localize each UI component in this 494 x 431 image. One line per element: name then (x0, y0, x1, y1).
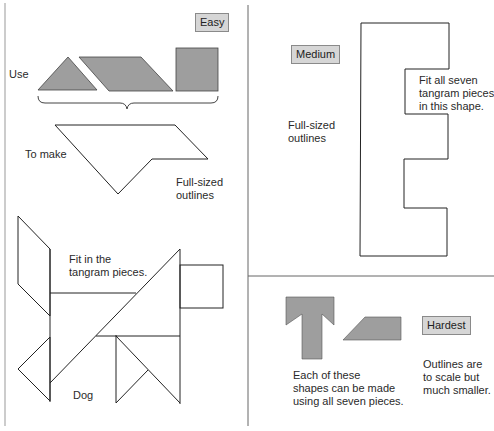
dog-outline (18, 216, 223, 404)
dog-instruction: Fit in the tangram pieces. (69, 253, 147, 279)
difficulty-badge-medium: Medium (291, 45, 340, 64)
use-label: Use (9, 68, 29, 81)
medium-instruction: Fit all seven tangram pieces in this sha… (419, 74, 494, 113)
hardest-note: Outlines are to scale but much smaller. (423, 358, 491, 397)
to-make-label: To make (25, 148, 67, 161)
medium-note: Full-sized outlines (288, 119, 335, 145)
difficulty-badge-hardest: Hardest (422, 316, 471, 335)
hardest-caption: Each of these shapes can be made using a… (293, 369, 404, 408)
trapezoid-silhouette (343, 317, 401, 340)
tangram-worksheet-graphics (0, 0, 494, 431)
letter-e-outline (360, 23, 449, 256)
easy-note: Full-sized outlines (176, 176, 223, 202)
brace-icon (38, 96, 218, 109)
dog-caption: Dog (73, 389, 93, 402)
t-shape-silhouette (286, 297, 334, 359)
difficulty-badge-easy: Easy (195, 13, 229, 32)
square-piece (176, 48, 218, 91)
